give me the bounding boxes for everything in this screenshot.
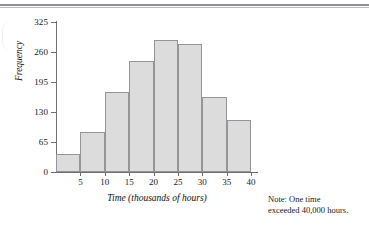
x-axis-tick bbox=[227, 172, 228, 176]
x-axis-tick bbox=[202, 172, 203, 176]
x-axis-tick bbox=[105, 172, 106, 176]
x-axis-tick-label: 10 bbox=[95, 178, 115, 187]
plot-area bbox=[56, 22, 251, 172]
histogram-bar bbox=[105, 92, 129, 172]
y-axis-tick-label: 195 bbox=[22, 78, 48, 87]
histogram-bar bbox=[129, 61, 153, 172]
x-axis-tick bbox=[154, 172, 155, 176]
x-axis-tick-label: 5 bbox=[70, 178, 90, 187]
x-axis-tick-label: 40 bbox=[241, 178, 261, 187]
x-axis-title: Time (thousands of hours) bbox=[56, 193, 258, 203]
figure-note-line-1: Note: One time bbox=[268, 194, 368, 205]
figure-note: Note: One time exceeded 40,000 hours. bbox=[268, 194, 368, 216]
x-axis-tick bbox=[80, 172, 81, 176]
histogram-bar bbox=[202, 97, 226, 172]
histogram-bar bbox=[56, 154, 80, 172]
histogram-bar bbox=[154, 40, 178, 172]
x-axis-tick-label: 25 bbox=[168, 178, 188, 187]
x-axis-tick bbox=[178, 172, 179, 176]
x-axis-line bbox=[56, 172, 258, 173]
header-rule-thick bbox=[0, 4, 369, 6]
x-axis-tick bbox=[251, 172, 252, 176]
x-axis-tick-label: 15 bbox=[119, 178, 139, 187]
y-axis-tick-label: 325 bbox=[22, 18, 48, 27]
y-axis-title: Frequency bbox=[14, 41, 24, 81]
x-axis-tick-label: 35 bbox=[217, 178, 237, 187]
figure-note-line-2: exceeded 40,000 hours. bbox=[268, 205, 368, 216]
histogram-bar bbox=[178, 44, 202, 172]
y-axis-tick-label: 130 bbox=[22, 108, 48, 117]
header-rule-thin bbox=[0, 7, 369, 8]
histogram-bar bbox=[227, 120, 251, 172]
y-axis-tick bbox=[51, 172, 57, 173]
x-axis-tick bbox=[129, 172, 130, 176]
histogram-bar bbox=[80, 132, 104, 172]
x-axis-tick-label: 30 bbox=[192, 178, 212, 187]
y-axis-tick-label: 260 bbox=[22, 48, 48, 57]
x-axis-tick-label: 20 bbox=[144, 178, 164, 187]
y-axis-tick-label: 0 bbox=[22, 168, 48, 177]
y-axis-tick-label: 65 bbox=[22, 138, 48, 147]
